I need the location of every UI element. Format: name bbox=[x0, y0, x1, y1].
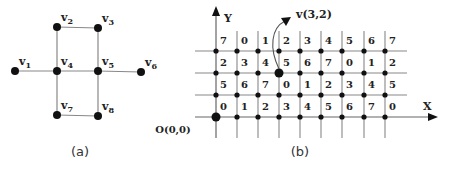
grid-point bbox=[361, 114, 366, 119]
grid-point bbox=[382, 70, 387, 75]
grid-point bbox=[297, 70, 302, 75]
grid-b: YXO(0,0)01234567056701234523456701270123… bbox=[155, 6, 438, 138]
grid-point bbox=[318, 48, 323, 53]
grid-point bbox=[339, 48, 344, 53]
cell-value: 7 bbox=[220, 35, 227, 46]
cell-value: 0 bbox=[220, 101, 227, 112]
grid-point bbox=[339, 92, 344, 97]
grid-point bbox=[297, 114, 302, 119]
grid-point bbox=[213, 92, 218, 97]
grid-point bbox=[318, 70, 323, 75]
cell-value: 4 bbox=[304, 101, 311, 112]
grid-point bbox=[361, 48, 366, 53]
cell-value: 2 bbox=[262, 101, 269, 112]
vertex-v8 bbox=[94, 112, 102, 120]
edge bbox=[57, 115, 98, 116]
grid-point bbox=[234, 114, 239, 119]
pointer-arrowhead-icon bbox=[281, 17, 291, 26]
cell-value: 3 bbox=[241, 57, 248, 68]
cell-value: 6 bbox=[368, 35, 375, 46]
cell-value: 6 bbox=[346, 101, 353, 112]
origin-label: O(0,0) bbox=[155, 124, 191, 136]
edge bbox=[98, 71, 141, 72]
grid-point bbox=[234, 92, 239, 97]
cell-value: 0 bbox=[283, 79, 290, 90]
edge bbox=[57, 27, 98, 28]
grid-point bbox=[255, 114, 260, 119]
grid-point bbox=[255, 70, 260, 75]
diagram-canvas: v1v2v3v4v5v6v7v8 YXO(0,0)012345670567012… bbox=[0, 0, 451, 171]
cell-value: 1 bbox=[241, 101, 248, 112]
grid-point bbox=[382, 92, 387, 97]
y-axis-label: Y bbox=[223, 12, 232, 25]
cell-value: 5 bbox=[325, 101, 332, 112]
cell-value: 1 bbox=[368, 57, 375, 68]
grid-point bbox=[297, 92, 302, 97]
grid-point bbox=[361, 92, 366, 97]
cell-value: 1 bbox=[304, 79, 311, 90]
cell-value: 7 bbox=[262, 79, 269, 90]
x-axis-label: X bbox=[423, 100, 432, 113]
vertex-v7 bbox=[53, 111, 61, 119]
grid-point bbox=[297, 48, 302, 53]
highlight-point bbox=[275, 69, 284, 78]
vertex-v6 bbox=[137, 68, 145, 76]
cell-value: 6 bbox=[241, 79, 248, 90]
cell-value: 7 bbox=[325, 57, 332, 68]
vertex-label-v3: v3 bbox=[101, 12, 114, 27]
grid-point bbox=[213, 70, 218, 75]
cell-value: 3 bbox=[304, 35, 311, 46]
vertex-v3 bbox=[94, 24, 102, 32]
cell-value: 4 bbox=[325, 35, 332, 46]
grid-point bbox=[276, 92, 281, 97]
cell-value: 7 bbox=[389, 35, 396, 46]
caption-b: (b) bbox=[291, 144, 309, 159]
cell-value: 0 bbox=[241, 35, 248, 46]
cell-value: 2 bbox=[220, 57, 227, 68]
grid-point bbox=[234, 48, 239, 53]
grid-point bbox=[339, 70, 344, 75]
grid-point bbox=[255, 48, 260, 53]
vertex-v4 bbox=[53, 67, 61, 75]
y-axis-arrow-icon bbox=[212, 6, 220, 16]
grid-point bbox=[213, 48, 218, 53]
cell-value: 0 bbox=[389, 101, 396, 112]
vertex-v1 bbox=[11, 67, 19, 75]
grid-point bbox=[255, 92, 260, 97]
vertex-v5 bbox=[94, 67, 102, 75]
highlight-label: v(3,2) bbox=[295, 8, 332, 21]
vertex-v2 bbox=[53, 23, 61, 31]
cell-value: 6 bbox=[304, 57, 311, 68]
grid-point bbox=[339, 114, 344, 119]
cell-value: 5 bbox=[389, 79, 396, 90]
graph-a: v1v2v3v4v5v6v7v8 bbox=[11, 11, 157, 120]
vertex-label-v4: v4 bbox=[60, 55, 73, 70]
x-axis-arrow-icon bbox=[428, 113, 438, 121]
vertex-label-v7: v7 bbox=[60, 99, 73, 114]
cell-value: 5 bbox=[346, 35, 353, 46]
grid-point bbox=[276, 48, 281, 53]
cell-value: 5 bbox=[283, 57, 290, 68]
cell-value: 2 bbox=[389, 57, 396, 68]
vertex-label-v1: v1 bbox=[18, 55, 31, 70]
highlight-point bbox=[212, 113, 221, 122]
grid-point bbox=[318, 92, 323, 97]
grid-point bbox=[361, 70, 366, 75]
cell-value: 4 bbox=[262, 57, 269, 68]
grid-point bbox=[234, 70, 239, 75]
cell-value: 3 bbox=[346, 79, 353, 90]
cell-value: 2 bbox=[325, 79, 332, 90]
grid-point bbox=[276, 114, 281, 119]
cell-value: 0 bbox=[346, 57, 353, 68]
caption-a: (a) bbox=[71, 144, 89, 159]
cell-value: 4 bbox=[368, 79, 375, 90]
cell-value: 3 bbox=[283, 101, 290, 112]
grid-point bbox=[382, 48, 387, 53]
cell-value: 7 bbox=[368, 101, 375, 112]
vertex-label-v5: v5 bbox=[101, 55, 114, 70]
cell-value: 1 bbox=[262, 35, 269, 46]
cell-value: 2 bbox=[283, 35, 290, 46]
vertex-label-v6: v6 bbox=[144, 56, 157, 71]
vertex-label-v2: v2 bbox=[60, 11, 73, 26]
cell-value: 5 bbox=[220, 79, 227, 90]
